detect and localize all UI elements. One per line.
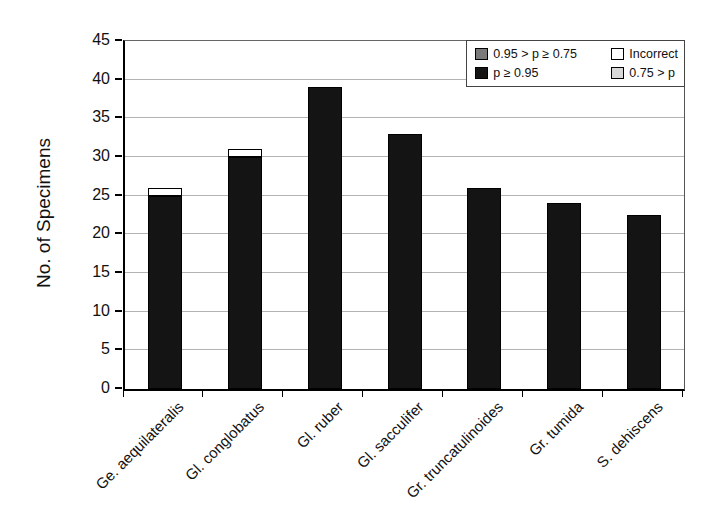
- y-tick-mark: [115, 387, 122, 389]
- y-tick-mark: [115, 232, 122, 234]
- legend-label: Incorrect: [629, 47, 678, 61]
- y-axis-title-text: No. of Specimens: [33, 138, 55, 288]
- y-tick-label: 0: [60, 379, 110, 397]
- x-tick-mark: [202, 390, 203, 397]
- y-tick-label: 15: [60, 263, 110, 281]
- y-tick-mark: [115, 116, 122, 118]
- y-tick-label: 40: [60, 70, 110, 88]
- x-tick-mark: [362, 390, 363, 397]
- bar-segment: [308, 87, 342, 389]
- legend-item: 0.75 > p: [611, 66, 678, 80]
- bar-segment: [388, 134, 422, 389]
- legend-item: p ≥ 0.95: [475, 66, 607, 80]
- bar-gl-conglobatus: [228, 149, 262, 389]
- x-category-label: Ge. aequilateralis: [92, 398, 187, 493]
- y-tick-mark: [115, 39, 122, 41]
- y-tick-label: 10: [60, 302, 110, 320]
- y-tick-label: 30: [60, 147, 110, 165]
- y-tick-label: 45: [60, 31, 110, 49]
- bar-segment: [228, 149, 262, 157]
- bar-gl-sacculifer: [388, 134, 422, 389]
- y-tick-mark: [115, 310, 122, 312]
- legend-label: p ≥ 0.95: [493, 66, 538, 80]
- bar-gr-tumida: [547, 203, 581, 389]
- y-tick-mark: [115, 78, 122, 80]
- x-category-label: Gl. ruber: [293, 398, 346, 451]
- legend-swatch-icon: [475, 48, 488, 60]
- y-tick-label: 35: [60, 108, 110, 126]
- x-category-label: Gl. sacculifer: [353, 398, 426, 471]
- legend-item: Incorrect: [611, 47, 678, 61]
- x-category-label: S. dehiscens: [593, 398, 666, 471]
- legend-item: 0.95 > p ≥ 0.75: [475, 47, 607, 61]
- y-tick-label: 5: [60, 340, 110, 358]
- legend-label: 0.95 > p ≥ 0.75: [493, 47, 577, 61]
- x-tick-mark: [442, 390, 443, 397]
- x-tick-mark: [282, 390, 283, 397]
- bar-gr-truncatulinoides: [467, 188, 501, 389]
- legend-swatch-icon: [611, 48, 624, 60]
- bar-s-dehiscens: [627, 215, 661, 389]
- y-tick-mark: [115, 155, 122, 157]
- legend-swatch-icon: [611, 67, 624, 79]
- bar-gl-ruber: [308, 87, 342, 389]
- x-category-label: Gr. tumida: [525, 398, 586, 459]
- y-tick-label: 20: [60, 224, 110, 242]
- bar-segment: [228, 157, 262, 389]
- x-tick-mark: [522, 390, 523, 397]
- x-tick-mark: [682, 390, 683, 397]
- bar-chart-figure: No. of Specimens 0.95 > p ≥ 0.75Incorrec…: [0, 0, 721, 518]
- bar-segment: [547, 203, 581, 389]
- bar-segment: [467, 188, 501, 389]
- bar-segment: [148, 196, 182, 389]
- y-tick-mark: [115, 348, 122, 350]
- y-tick-mark: [115, 271, 122, 273]
- bar-ge-aequilateralis: [148, 188, 182, 389]
- x-tick-mark: [123, 390, 124, 397]
- y-tick-mark: [115, 194, 122, 196]
- legend: 0.95 > p ≥ 0.75Incorrectp ≥ 0.950.75 > p: [466, 40, 685, 87]
- legend-swatch-icon: [475, 67, 488, 79]
- legend-label: 0.75 > p: [629, 66, 675, 80]
- bar-segment: [627, 215, 661, 389]
- y-gridline: [125, 117, 684, 118]
- bar-segment: [148, 188, 182, 196]
- x-category-label: Gl. conglobatus: [181, 398, 267, 484]
- x-tick-mark: [602, 390, 603, 397]
- plot-area: 0.95 > p ≥ 0.75Incorrectp ≥ 0.950.75 > p: [123, 40, 685, 391]
- y-tick-label: 25: [60, 186, 110, 204]
